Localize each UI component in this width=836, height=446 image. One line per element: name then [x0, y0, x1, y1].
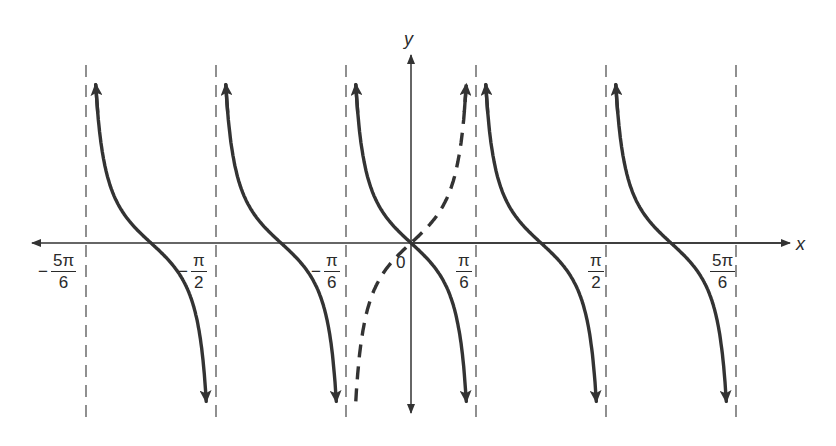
tick-label-pi-6: π6	[456, 252, 472, 291]
arrow-head-icon	[616, 85, 618, 113]
y-axis-label: y	[404, 30, 413, 48]
arrow-head-icon	[96, 85, 98, 113]
tick-label-5pi-6: 5π6	[710, 252, 735, 291]
tick-label-neg-5pi-6: − 5π6	[38, 252, 76, 291]
tick-label-neg-pi-6: − π6	[311, 252, 340, 291]
arrow-head-icon	[356, 85, 358, 113]
arrow-head-icon	[226, 85, 228, 113]
tick-label-pi-2: π2	[588, 252, 604, 291]
tangent-graph	[0, 0, 836, 446]
arrow-head-icon	[464, 85, 466, 112]
tick-label-neg-pi-2: − π2	[178, 252, 207, 291]
arrow-head-icon	[486, 85, 488, 113]
origin-label: 0	[396, 254, 405, 271]
x-axis-label: x	[796, 235, 805, 253]
